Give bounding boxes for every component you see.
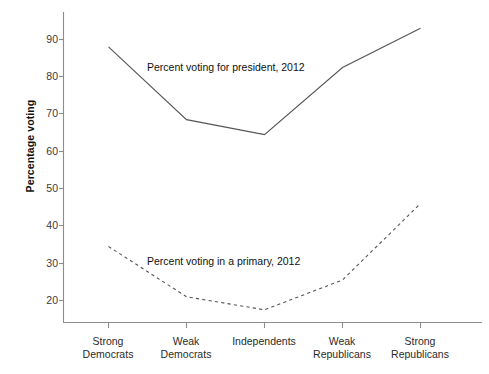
x-tick-strong-democrats: Strong Democrats — [83, 335, 134, 361]
x-tick-line2: Democrats — [83, 348, 134, 361]
x-tick-weak-democrats: Weak Democrats — [161, 335, 212, 361]
series-annotation-primary: Percent voting in a primary, 2012 — [147, 255, 300, 267]
x-tick-line1: Weak — [313, 335, 371, 348]
chart-figure: Percentage voting 90 80 70 60 50 40 30 2… — [0, 0, 489, 374]
plot-canvas — [0, 0, 489, 374]
x-tick-line2: Republicans — [313, 348, 371, 361]
x-tick-line1: Weak — [161, 335, 212, 348]
series-annotation-president: Percent voting for president, 2012 — [147, 61, 305, 73]
x-tick-line1: Strong — [391, 335, 449, 348]
y-axis-ticks — [59, 40, 63, 301]
x-tick-weak-republicans: Weak Republicans — [313, 335, 371, 361]
x-tick-line1: Independents — [232, 335, 296, 348]
x-tick-independents: Independents — [232, 335, 296, 348]
x-tick-line1: Strong — [83, 335, 134, 348]
x-tick-line2: Democrats — [161, 348, 212, 361]
series-line-president — [109, 28, 421, 134]
x-tick-line2: Republicans — [391, 348, 449, 361]
x-tick-strong-republicans: Strong Republicans — [391, 335, 449, 361]
